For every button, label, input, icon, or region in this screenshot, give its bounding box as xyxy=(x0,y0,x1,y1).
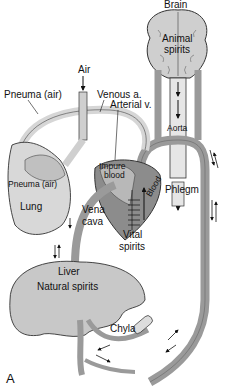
panel-label: A xyxy=(6,371,15,386)
label-animal: Animal xyxy=(162,33,193,44)
label-liver: Liver xyxy=(58,266,80,277)
label-air: Air xyxy=(78,64,91,75)
label-aorta: Aorta xyxy=(167,123,188,133)
label-cava: cava xyxy=(82,216,104,227)
label-phlegm: Phlegm xyxy=(165,184,199,195)
label-natural-spirits: Natural spirits xyxy=(37,281,98,292)
label-pneuma-top: Pneuma (air) xyxy=(4,89,62,100)
trachea xyxy=(65,76,87,165)
galen-physiology-diagram: Brain Animal spirits Air Pneuma (air) Ve… xyxy=(0,0,226,387)
label-vital-spirits: spirits xyxy=(119,241,145,252)
label-vital: Vital xyxy=(123,229,142,240)
label-chyla: Chyla xyxy=(110,323,136,334)
label-arterial-v: Arterial v. xyxy=(110,99,152,110)
label-pneuma-lung: Pneuma (air) xyxy=(8,179,57,189)
label-vena: Vena xyxy=(82,204,105,215)
label-animal-spirits: spirits xyxy=(164,44,190,55)
label-lung: Lung xyxy=(20,201,42,212)
label-brain: Brain xyxy=(164,0,187,10)
label-blood-left: blood xyxy=(104,170,125,180)
